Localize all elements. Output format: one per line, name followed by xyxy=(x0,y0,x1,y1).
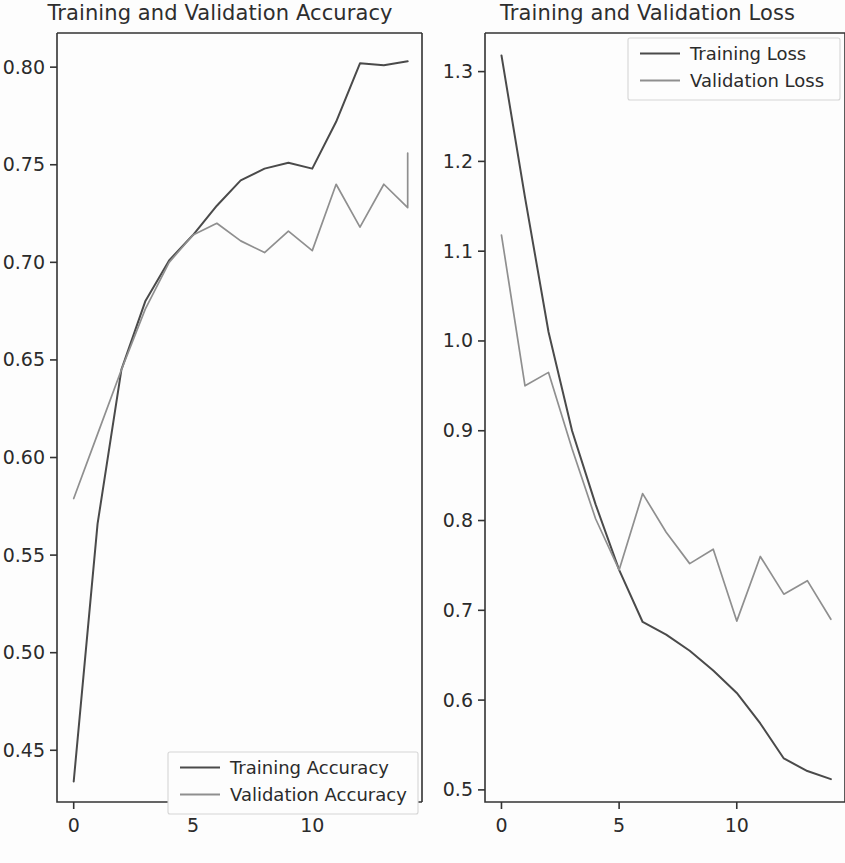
loss-panel: Training and Validation Loss 0.50.60.70.… xyxy=(425,0,845,863)
accuracy-plot: 0.450.500.550.600.650.700.750.800510Trai… xyxy=(0,0,430,863)
y-tick-label: 0.6 xyxy=(443,689,473,711)
y-tick-label: 1.0 xyxy=(443,329,473,351)
y-tick-label: 0.45 xyxy=(3,739,45,761)
validation-series-line xyxy=(501,235,830,621)
validation-series-line xyxy=(74,153,408,498)
accuracy-panel: Training and Validation Accuracy 0.450.5… xyxy=(0,0,430,863)
x-tick-label: 5 xyxy=(613,814,625,836)
legend-label-training: Training Accuracy xyxy=(229,757,389,778)
legend-label-validation: Validation Accuracy xyxy=(230,784,407,805)
y-tick-label: 0.60 xyxy=(3,446,45,468)
y-tick-label: 0.55 xyxy=(3,544,45,566)
training-series-line xyxy=(74,61,408,781)
y-tick-label: 1.3 xyxy=(443,60,473,82)
legend-label-training: Training Loss xyxy=(689,43,806,64)
y-tick-label: 1.2 xyxy=(443,150,473,172)
y-tick-label: 0.75 xyxy=(3,153,45,175)
figure-canvas: Training and Validation Accuracy 0.450.5… xyxy=(0,0,845,863)
y-tick-label: 0.70 xyxy=(3,251,45,273)
y-tick-label: 0.80 xyxy=(3,56,45,78)
y-tick-label: 0.65 xyxy=(3,348,45,370)
plot-frame xyxy=(485,33,845,802)
x-tick-label: 10 xyxy=(300,814,324,836)
plot-frame xyxy=(57,33,422,802)
y-tick-label: 0.8 xyxy=(443,509,473,531)
y-tick-label: 1.1 xyxy=(443,240,473,262)
x-tick-label: 10 xyxy=(725,814,749,836)
x-tick-label: 5 xyxy=(187,814,199,836)
y-tick-label: 0.7 xyxy=(443,599,473,621)
y-tick-label: 0.9 xyxy=(443,419,473,441)
x-tick-label: 0 xyxy=(495,814,507,836)
x-tick-label: 0 xyxy=(68,814,80,836)
y-tick-label: 0.5 xyxy=(443,778,473,800)
legend-label-validation: Validation Loss xyxy=(690,70,824,91)
loss-plot: 0.50.60.70.80.91.01.11.21.30510Training … xyxy=(425,0,845,863)
training-series-line xyxy=(501,55,830,779)
y-tick-label: 0.50 xyxy=(3,641,45,663)
